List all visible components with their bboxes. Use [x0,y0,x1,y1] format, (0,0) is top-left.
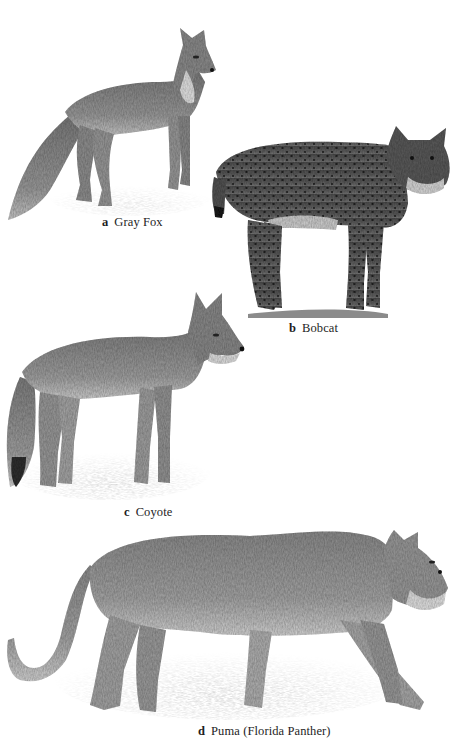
caption-text: Gray Fox [114,215,162,229]
puma-illustration [0,520,463,720]
caption-text: Bobcat [302,321,338,335]
illustration-plate: aGray Fox [0,0,463,748]
caption-gray-fox: aGray Fox [102,215,163,230]
caption-letter: c [124,505,130,519]
caption-bobcat: bBobcat [289,321,338,336]
gray-fox-illustration [0,20,230,220]
caption-text: Puma (Florida Panther) [211,724,331,738]
caption-text: Coyote [136,505,173,519]
caption-letter: a [102,215,108,229]
coyote-illustration [0,287,250,502]
caption-letter: d [198,724,205,738]
caption-letter: b [289,321,296,335]
caption-coyote: cCoyote [124,505,172,520]
caption-puma: dPuma (Florida Panther) [198,724,331,739]
